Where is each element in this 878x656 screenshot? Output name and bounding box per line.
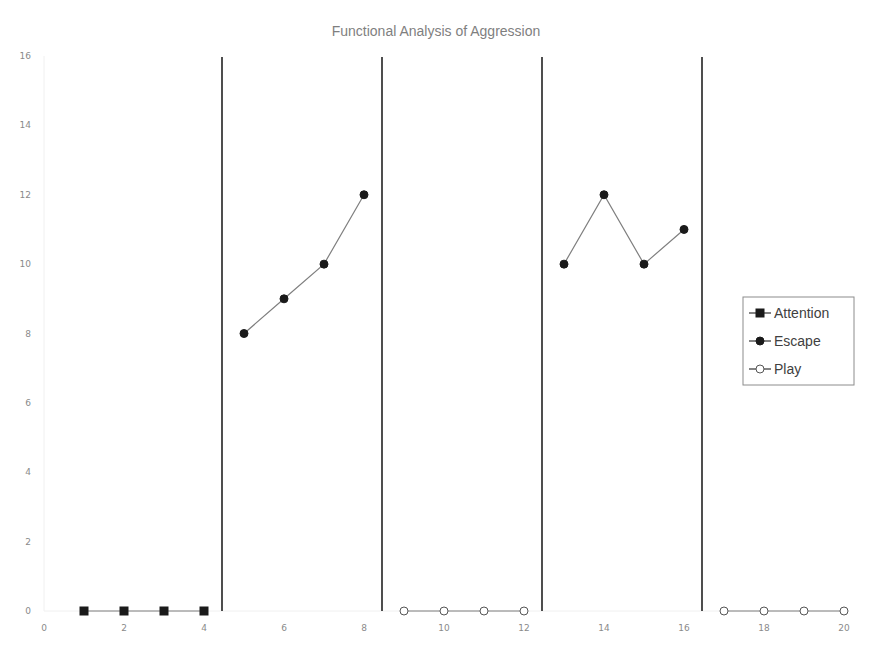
legend-label: Attention [774, 305, 829, 321]
x-tick-label: 18 [758, 623, 770, 633]
series-line [244, 195, 364, 334]
open-circle-marker-icon [840, 607, 848, 615]
x-tick-label: 2 [121, 623, 127, 633]
filled-circle-marker-icon [240, 330, 248, 338]
x-tick-label: 8 [361, 623, 367, 633]
open-circle-marker-icon [440, 607, 448, 615]
y-tick-label: 8 [25, 329, 31, 339]
chart-canvas: Functional Analysis of Aggression 024681… [0, 0, 878, 656]
y-tick-label: 6 [25, 398, 31, 408]
open-circle-marker-icon [760, 607, 768, 615]
square-marker-icon [120, 607, 128, 615]
series-layer [80, 191, 848, 615]
square-marker-icon [756, 309, 764, 317]
open-circle-marker-icon [520, 607, 528, 615]
filled-circle-marker-icon [680, 225, 688, 233]
x-tick-label: 14 [598, 623, 610, 633]
y-tick-label: 0 [25, 606, 31, 616]
legend-label: Escape [774, 333, 821, 349]
filled-circle-marker-icon [600, 191, 608, 199]
square-marker-icon [200, 607, 208, 615]
y-tick-label: 16 [20, 51, 32, 61]
open-circle-marker-icon [756, 365, 764, 373]
x-tick-label: 12 [518, 623, 529, 633]
chart-title: Functional Analysis of Aggression [332, 23, 541, 39]
filled-circle-marker-icon [640, 260, 648, 268]
legend-label: Play [774, 361, 801, 377]
open-circle-marker-icon [480, 607, 488, 615]
x-tick-label: 4 [201, 623, 207, 633]
x-tick-label: 6 [281, 623, 287, 633]
legend: AttentionEscapePlay [743, 297, 854, 385]
filled-circle-marker-icon [756, 337, 764, 345]
filled-circle-marker-icon [280, 295, 288, 303]
x-tick-label: 0 [41, 623, 47, 633]
square-marker-icon [160, 607, 168, 615]
y-tick-label: 14 [20, 120, 32, 130]
x-tick-label: 16 [678, 623, 690, 633]
open-circle-marker-icon [800, 607, 808, 615]
x-tick-label: 20 [838, 623, 850, 633]
y-axis: 0246810121416 [20, 51, 44, 616]
filled-circle-marker-icon [560, 260, 568, 268]
filled-circle-marker-icon [360, 191, 368, 199]
open-circle-marker-icon [720, 607, 728, 615]
y-tick-label: 2 [25, 537, 31, 547]
filled-circle-marker-icon [320, 260, 328, 268]
series-escape [240, 191, 688, 338]
open-circle-marker-icon [400, 607, 408, 615]
square-marker-icon [80, 607, 88, 615]
y-tick-label: 12 [20, 190, 31, 200]
series-attention [80, 607, 208, 615]
phase-change-lines [222, 57, 702, 611]
x-tick-label: 10 [438, 623, 450, 633]
y-tick-label: 4 [25, 467, 31, 477]
y-tick-label: 10 [20, 259, 32, 269]
series-line [564, 195, 684, 264]
